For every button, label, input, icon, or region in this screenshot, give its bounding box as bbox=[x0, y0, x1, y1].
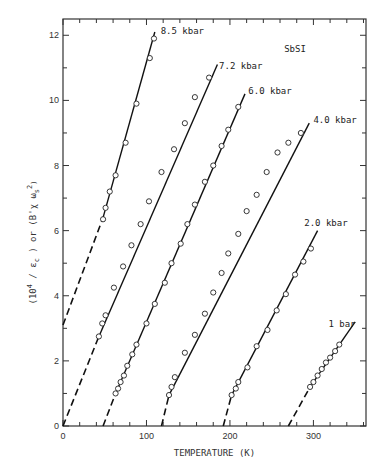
data-point bbox=[244, 209, 249, 214]
series-8-5-kbar bbox=[63, 32, 157, 325]
data-point bbox=[229, 392, 234, 397]
x-tick-label: 0 bbox=[60, 431, 65, 441]
data-point bbox=[226, 127, 231, 132]
data-point bbox=[96, 334, 101, 339]
x-axis-title: TEMPERATURE (K) bbox=[174, 448, 255, 458]
data-point bbox=[233, 386, 238, 391]
data-point bbox=[192, 95, 197, 100]
data-point bbox=[134, 342, 139, 347]
data-point bbox=[236, 104, 241, 109]
y-tick-label: 10 bbox=[49, 95, 59, 105]
y-axis-title-part: ) or (B'χ ω bbox=[28, 193, 38, 259]
data-point bbox=[130, 352, 135, 357]
data-point bbox=[144, 321, 149, 326]
y-axis-title: (104 / εc ) or (B'χ ωs2) bbox=[26, 180, 41, 304]
series-solid-line bbox=[169, 123, 309, 395]
data-point bbox=[319, 366, 324, 371]
data-point bbox=[100, 217, 105, 222]
series-dashed-line bbox=[63, 336, 99, 426]
data-point bbox=[178, 241, 183, 246]
data-point bbox=[311, 379, 316, 384]
data-point bbox=[274, 308, 279, 313]
data-point bbox=[100, 321, 105, 326]
data-point bbox=[103, 205, 108, 210]
series-label: 4.0 kbar bbox=[313, 115, 357, 125]
data-point bbox=[113, 391, 118, 396]
data-point bbox=[169, 261, 174, 266]
data-point bbox=[308, 246, 313, 251]
data-point bbox=[107, 189, 112, 194]
data-point bbox=[236, 379, 241, 384]
series-label: 1 bar bbox=[328, 319, 356, 329]
data-point bbox=[264, 169, 269, 174]
data-point bbox=[315, 373, 320, 378]
data-point bbox=[254, 192, 259, 197]
data-point bbox=[171, 147, 176, 152]
data-point bbox=[111, 285, 116, 290]
data-point bbox=[333, 349, 338, 354]
data-point bbox=[192, 332, 197, 337]
data-point bbox=[113, 173, 118, 178]
data-point bbox=[337, 342, 342, 347]
data-point bbox=[172, 375, 177, 380]
data-point bbox=[219, 270, 224, 275]
series-dashed-line bbox=[288, 387, 310, 426]
series-1-bar bbox=[288, 322, 355, 426]
data-point bbox=[202, 311, 207, 316]
data-point bbox=[185, 222, 190, 227]
material-annotation: SbSI bbox=[284, 44, 306, 54]
data-point bbox=[138, 222, 143, 227]
y-tick-label: 8 bbox=[54, 161, 59, 171]
data-point bbox=[286, 140, 291, 145]
y-axis-title-part: s bbox=[33, 189, 41, 193]
y-tick-label: 4 bbox=[54, 291, 59, 301]
series-label: 7.2 kbar bbox=[219, 61, 263, 71]
x-tick-label: 100 bbox=[139, 431, 154, 441]
data-point bbox=[292, 272, 297, 277]
data-point bbox=[192, 202, 197, 207]
series-2-0-kbar bbox=[223, 231, 317, 426]
series-4-0-kbar bbox=[161, 123, 309, 426]
y-tick-label: 2 bbox=[54, 356, 59, 366]
data-point bbox=[169, 384, 174, 389]
series-label: 8.5 kbar bbox=[161, 26, 205, 36]
data-point bbox=[125, 363, 130, 368]
data-point bbox=[120, 264, 125, 269]
data-point bbox=[236, 231, 241, 236]
data-point bbox=[152, 301, 157, 306]
data-point bbox=[301, 259, 306, 264]
data-point bbox=[202, 179, 207, 184]
series-dashed-line bbox=[161, 395, 169, 426]
x-tick-label: 200 bbox=[222, 431, 237, 441]
data-point bbox=[182, 350, 187, 355]
data-point bbox=[151, 36, 156, 41]
data-point bbox=[147, 55, 152, 60]
x-tick-label: 300 bbox=[306, 431, 321, 441]
data-point bbox=[103, 313, 108, 318]
data-point bbox=[298, 130, 303, 135]
series-layer bbox=[63, 32, 355, 426]
data-point bbox=[283, 292, 288, 297]
series-dashed-line bbox=[103, 393, 116, 426]
y-axis-title-part: / ε bbox=[28, 262, 38, 284]
data-point bbox=[159, 169, 164, 174]
data-point bbox=[134, 101, 139, 106]
y-axis-title-text: (104 / εc ) or (B'χ ωs2) bbox=[26, 180, 41, 304]
data-point bbox=[129, 243, 134, 248]
data-point bbox=[211, 290, 216, 295]
y-tick-label: 0 bbox=[54, 421, 59, 431]
data-point bbox=[245, 365, 250, 370]
data-point bbox=[211, 163, 216, 168]
data-point bbox=[123, 140, 128, 145]
data-point bbox=[162, 280, 167, 285]
data-point bbox=[307, 384, 312, 389]
labels-layer: 8.5 kbar7.2 kbar6.0 kbar4.0 kbar2.0 kbar… bbox=[161, 26, 358, 329]
data-point bbox=[219, 143, 224, 148]
data-point bbox=[146, 199, 151, 204]
data-point bbox=[254, 344, 259, 349]
data-point bbox=[166, 392, 171, 397]
series-solid-line bbox=[232, 231, 318, 395]
data-point bbox=[206, 75, 211, 80]
y-axis-title-part: ) bbox=[30, 180, 38, 184]
y-axis-title-part: (10 bbox=[28, 288, 38, 304]
